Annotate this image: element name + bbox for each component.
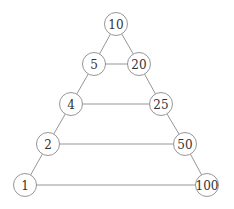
- divisor-graph: 105204252501100: [0, 0, 234, 209]
- node-label: 2: [44, 138, 52, 152]
- node-label: 10: [108, 18, 123, 32]
- node-25: 25: [150, 93, 173, 116]
- node-1: 1: [14, 174, 37, 197]
- node-100: 100: [196, 174, 219, 197]
- node-label: 5: [90, 58, 98, 72]
- node-label: 1: [21, 179, 29, 193]
- node-4: 4: [60, 93, 83, 116]
- node-label: 25: [153, 98, 168, 112]
- edges: [25, 24, 207, 185]
- node-label: 100: [196, 179, 219, 193]
- node-label: 20: [131, 58, 146, 72]
- node-5: 5: [83, 53, 106, 76]
- node-20: 20: [128, 53, 151, 76]
- node-2: 2: [37, 133, 60, 156]
- node-label: 50: [177, 138, 192, 152]
- node-10: 10: [105, 13, 128, 36]
- node-50: 50: [174, 133, 197, 156]
- nodes: 105204252501100: [14, 13, 219, 197]
- node-label: 4: [67, 98, 75, 112]
